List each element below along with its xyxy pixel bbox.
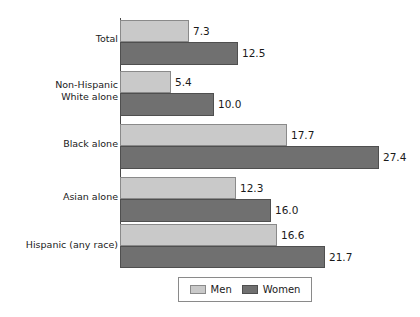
bar-value-women-total: 12.5 [242, 47, 265, 59]
legend-label-men: Men [211, 284, 232, 295]
bar-women-black [120, 146, 379, 169]
bar-value-men-hispanic: 16.6 [281, 229, 304, 241]
bar-chart: Total Non-Hispanic White alone Black alo… [0, 0, 420, 317]
bar-men-hispanic [120, 224, 277, 246]
bar-women-nhwhite [120, 93, 214, 116]
bar-men-asian [120, 177, 236, 199]
bar-men-nhwhite [120, 71, 171, 93]
bar-value-men-total: 7.3 [193, 25, 210, 37]
legend-item-men: Men [190, 284, 232, 295]
bar-men-black [120, 124, 287, 146]
legend-label-women: Women [263, 284, 301, 295]
bar-value-women-black: 27.4 [383, 151, 406, 163]
category-label-non-hispanic-white: Non-Hispanic White alone [0, 79, 118, 102]
bar-value-women-nhwhite: 10.0 [218, 98, 241, 110]
bar-men-total [120, 20, 189, 42]
legend-item-women: Women [242, 284, 301, 295]
bar-value-women-asian: 16.0 [275, 204, 298, 216]
bar-value-men-asian: 12.3 [240, 182, 263, 194]
bar-value-men-black: 17.7 [291, 129, 314, 141]
category-label-black-alone: Black alone [0, 138, 118, 150]
legend-swatch-women-icon [242, 285, 258, 294]
category-label-total: Total [0, 33, 118, 45]
category-label-hispanic: Hispanic (any race) [0, 239, 118, 251]
bar-value-men-nhwhite: 5.4 [175, 76, 192, 88]
bar-women-asian [120, 199, 271, 222]
chart-legend: Men Women [178, 277, 312, 302]
bar-value-women-hispanic: 21.7 [329, 251, 352, 263]
bar-women-hispanic [120, 246, 325, 268]
category-label-asian-alone: Asian alone [0, 191, 118, 203]
bar-women-total [120, 42, 238, 65]
legend-swatch-men-icon [190, 285, 206, 294]
